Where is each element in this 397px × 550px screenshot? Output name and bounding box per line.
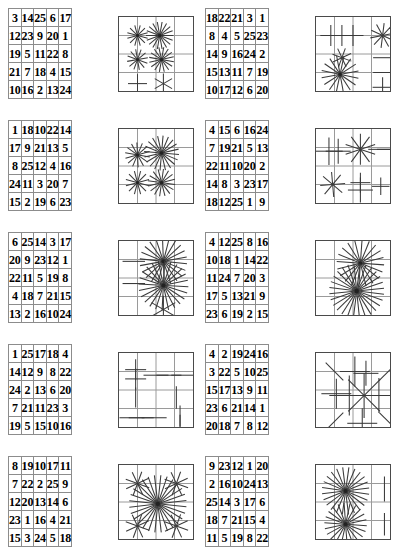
number-cell: 10 xyxy=(206,251,219,269)
number-cell: 22 xyxy=(256,251,269,269)
number-cell: 18 xyxy=(34,63,47,81)
number-grid-row: 22115198 xyxy=(9,269,72,287)
number-cell: 16 xyxy=(59,417,72,435)
number-grid-row: 23619215 xyxy=(206,305,269,323)
number-cell: 7 xyxy=(9,475,22,493)
burst-mark xyxy=(322,467,369,514)
burst-mark xyxy=(321,379,351,409)
number-cell: 24 xyxy=(9,381,22,399)
number-grid-row: 25143176 xyxy=(206,493,269,511)
number-cell: 9 xyxy=(256,287,269,305)
number-cell: 12 xyxy=(231,457,244,475)
number-cell: 25 xyxy=(46,475,59,493)
number-grid-row: 18222131 xyxy=(206,9,269,27)
number-cell: 9 xyxy=(21,251,34,269)
number-grid-row: 15219623 xyxy=(9,193,72,211)
number-cell: 17 xyxy=(243,493,256,511)
number-cell: 19 xyxy=(34,193,47,211)
number-cell: 20 xyxy=(46,27,59,45)
number-cell: 19 xyxy=(231,305,244,323)
number-cell: 4 xyxy=(256,511,269,529)
number-cell: 8 xyxy=(218,175,231,193)
number-cell: 17 xyxy=(256,175,269,193)
number-cell: 6 xyxy=(218,305,231,323)
number-cell: 23 xyxy=(46,399,59,417)
number-grid-row: 18721154 xyxy=(206,511,269,529)
number-cell: 15 xyxy=(9,529,22,547)
burst-center xyxy=(160,181,163,184)
burst-center xyxy=(344,522,348,526)
number-cell: 5 xyxy=(59,139,72,157)
number-cell: 2 xyxy=(243,305,256,323)
number-grid: 4122581610181142211247203175132192361921… xyxy=(205,232,269,323)
number-cell: 25 xyxy=(21,157,34,175)
number-grid-row: 17921135 xyxy=(9,139,72,157)
number-cell: 5 xyxy=(231,363,244,381)
number-cell: 13 xyxy=(9,305,22,323)
number-cell: 14 xyxy=(206,45,219,63)
number-cell: 11 xyxy=(231,63,244,81)
number-cell: 19 xyxy=(46,269,59,287)
number-grid-row: 24113207 xyxy=(9,175,72,193)
number-cell: 21 xyxy=(21,399,34,417)
burst-mark xyxy=(165,514,188,537)
number-cell: 9 xyxy=(218,45,231,63)
number-cell: 13 xyxy=(231,287,244,305)
number-cell: 8 xyxy=(243,233,256,251)
number-cell: 20 xyxy=(256,81,269,99)
number-cell: 8 xyxy=(59,45,72,63)
number-grid-row: 42192416 xyxy=(206,345,269,363)
number-cell: 16 xyxy=(21,81,34,99)
number-grid: 6251431720923121221151984187211513216102… xyxy=(8,232,72,323)
number-cell: 16 xyxy=(34,511,47,529)
number-grid-row: 20923121 xyxy=(9,251,72,269)
pattern-grid xyxy=(315,240,391,316)
number-cell: 13 xyxy=(34,493,47,511)
number-cell: 5 xyxy=(46,529,59,547)
number-cell: 23 xyxy=(218,457,231,475)
number-cell: 4 xyxy=(218,27,231,45)
number-cell: 13 xyxy=(256,475,269,493)
number-cell: 15 xyxy=(256,305,269,323)
burst-ray xyxy=(333,53,351,61)
burst-mark xyxy=(372,178,389,195)
number-cell: 17 xyxy=(218,381,231,399)
number-grid-row: 12239201 xyxy=(9,27,72,45)
number-cell: 7 xyxy=(231,417,244,435)
number-cell: 14 xyxy=(59,121,72,139)
number-cell: 9 xyxy=(243,381,256,399)
number-cell: 15 xyxy=(34,417,47,435)
number-grid-row: 7222259 xyxy=(9,475,72,493)
number-cell: 4 xyxy=(46,63,59,81)
number-cell: 20 xyxy=(21,493,34,511)
number-grid: 1181022141792113582512416241132071521962… xyxy=(8,120,72,211)
number-cell: 22 xyxy=(46,121,59,139)
number-grid-row: 24213620 xyxy=(9,381,72,399)
number-cell: 9 xyxy=(256,193,269,211)
number-cell: 24 xyxy=(243,45,256,63)
number-cell: 2 xyxy=(21,193,34,211)
number-cell: 12 xyxy=(34,157,47,175)
burst-ray xyxy=(379,413,390,427)
number-grid-row: 41561624 xyxy=(206,121,269,139)
burst-mark xyxy=(348,178,373,203)
number-cell: 24 xyxy=(59,305,72,323)
number-cell: 25 xyxy=(231,233,244,251)
number-cell: 19 xyxy=(9,45,22,63)
number-cell: 12 xyxy=(256,417,269,435)
number-cell: 18 xyxy=(59,529,72,547)
number-grid-row: 151311719 xyxy=(206,63,269,81)
number-cell: 14 xyxy=(218,493,231,511)
number-cell: 22 xyxy=(218,363,231,381)
burst-mark xyxy=(144,136,179,171)
number-cell: 16 xyxy=(218,475,231,493)
number-cell: 8 xyxy=(9,157,22,175)
number-cell: 13 xyxy=(218,63,231,81)
number-grid: 4219241632251025151713911236211412018781… xyxy=(205,344,269,435)
number-cell: 1 xyxy=(59,251,72,269)
number-grid-row: 8452523 xyxy=(206,27,269,45)
number-cell: 10 xyxy=(231,157,244,175)
burst-mark xyxy=(373,77,390,91)
number-cell: 2 xyxy=(218,345,231,363)
burst-mark xyxy=(149,47,174,72)
